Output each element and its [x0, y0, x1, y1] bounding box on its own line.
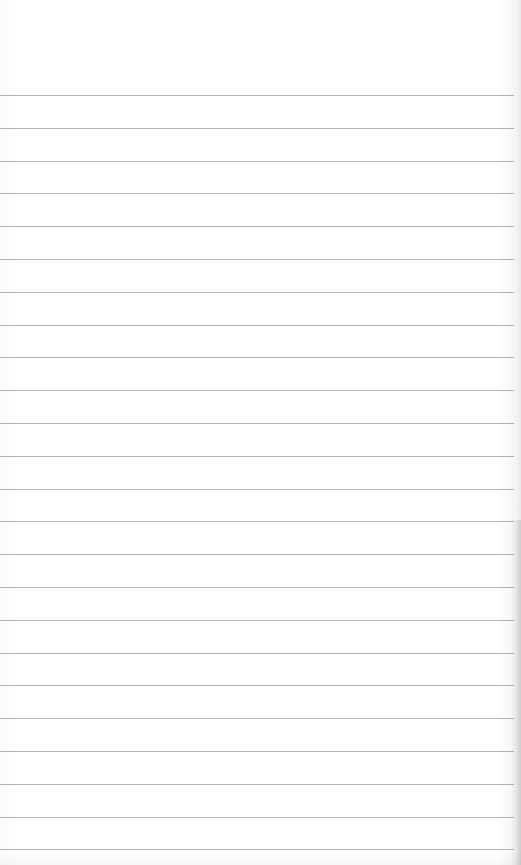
ruled-line	[0, 718, 514, 719]
ruled-line	[0, 489, 514, 490]
ruled-line	[0, 193, 514, 194]
ruled-line	[0, 456, 514, 457]
ruled-line	[0, 620, 514, 621]
ruled-line	[0, 128, 514, 129]
ruled-line	[0, 849, 514, 850]
ruled-line	[0, 817, 514, 818]
ruled-line	[0, 554, 514, 555]
page-bottom-shade	[0, 851, 521, 865]
ruled-line	[0, 587, 514, 588]
ruled-line	[0, 161, 514, 162]
ruled-line	[0, 390, 514, 391]
ruled-line	[0, 357, 514, 358]
ruled-line	[0, 423, 514, 424]
ruled-line	[0, 226, 514, 227]
lined-paper	[0, 0, 521, 865]
ruled-line	[0, 751, 514, 752]
ruled-line	[0, 292, 514, 293]
ruled-line	[0, 259, 514, 260]
ruled-line	[0, 95, 514, 96]
page-edge-shadow	[511, 520, 521, 865]
ruled-line	[0, 521, 514, 522]
ruled-line	[0, 325, 514, 326]
ruled-line	[0, 784, 514, 785]
ruled-line	[0, 653, 514, 654]
ruled-line	[0, 685, 514, 686]
